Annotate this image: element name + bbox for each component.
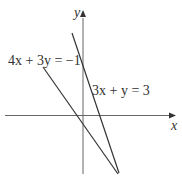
- line-label-3x-plus-y: 3x + y = 3: [92, 83, 150, 98]
- x-axis-label: x: [170, 118, 178, 133]
- y-axis-label: y: [72, 5, 81, 20]
- y-axis: [80, 10, 86, 174]
- y-axis-arrow-icon: [80, 10, 86, 17]
- line-label-4x-plus-3y: 4x + 3y = −1: [8, 53, 81, 68]
- x-axis: [5, 113, 176, 119]
- coordinate-diagram: y x 4x + 3y = −1 3x + y = 3: [0, 0, 182, 183]
